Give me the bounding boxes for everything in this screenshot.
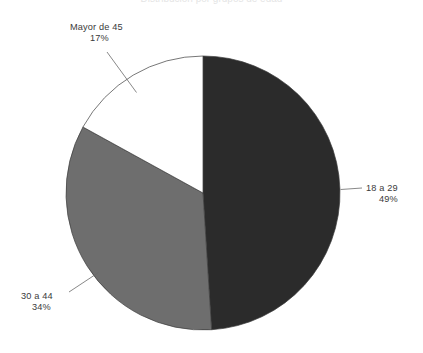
slice-label-mayor-45-name: Mayor de 45 (70, 22, 123, 32)
pie-chart-figure: Distribución por grupos de edad 18 a 29 … (0, 0, 423, 353)
slice-label-30-44: 30 a 44 34% (21, 291, 53, 312)
pie-chart-svg: 18 a 29 49% 30 a 44 34% Mayor de 45 17% (0, 0, 423, 353)
slice-label-30-44-name: 30 a 44 (21, 291, 53, 301)
pie-slices (66, 56, 340, 330)
slice-label-18-29-name: 18 a 29 (366, 183, 398, 193)
slice-label-mayor-45-percent: 17% (90, 33, 109, 43)
slice-label-mayor-45: Mayor de 45 17% (70, 22, 123, 43)
leader-line-30-44 (69, 273, 99, 293)
slice-label-18-29: 18 a 29 49% (366, 183, 398, 204)
slice-label-18-29-percent: 49% (379, 194, 398, 204)
slice-label-30-44-percent: 34% (32, 302, 51, 312)
leader-line-18-29 (341, 188, 362, 190)
pie-slice-18-29[interactable] (203, 56, 340, 330)
